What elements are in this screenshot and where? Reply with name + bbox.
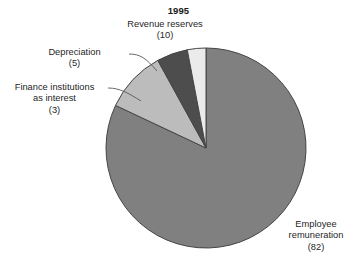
pie-slices [106,48,306,248]
label-depreciation-value: (5) [22,58,127,69]
label-finance-institutions-value: (3) [2,105,107,116]
label-finance-institutions-name: Finance institutions [2,82,107,93]
label-employee-remuneration-value: (82) [276,242,356,253]
label-depreciation: Depreciation (5) [22,47,127,70]
label-revenue-reserves-value: (10) [100,30,230,41]
label-employee-remuneration-name2: remuneration [276,230,356,241]
pie-chart-figure: 1995 Revenue reserves (10) Depreciation … [0,0,357,262]
label-finance-institutions: Finance institutions as interest (3) [2,82,107,116]
label-depreciation-name: Depreciation [22,47,127,58]
label-revenue-reserves-name: Revenue reserves [100,19,230,30]
label-employee-remuneration: Employee remuneration (82) [276,219,356,253]
label-employee-remuneration-name: Employee [276,219,356,230]
label-revenue-reserves: Revenue reserves (10) [100,19,230,42]
label-finance-institutions-name2: as interest [2,93,107,104]
